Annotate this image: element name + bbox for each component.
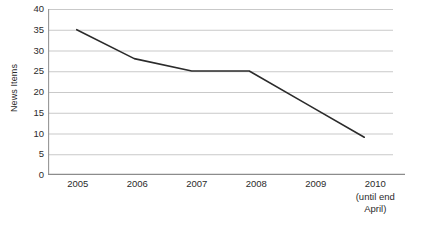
x-axis-tick-labels: 2005 2006 2007 2008 2009 2010 (until end… xyxy=(48,178,405,230)
y-tick-label-0: 0 xyxy=(39,170,44,180)
y-tick-label-5: 5 xyxy=(39,150,44,160)
series-news-items xyxy=(77,30,365,138)
y-tick-label-20: 20 xyxy=(33,87,44,97)
x-tick-label-2009: 2009 xyxy=(286,178,346,230)
chart-canvas xyxy=(48,9,405,175)
y-tick-label-15: 15 xyxy=(33,108,44,118)
series-line-news-items xyxy=(77,30,365,138)
x-tick-label-2007-text: 2007 xyxy=(186,178,207,189)
x-tick-label-2009-text: 2009 xyxy=(305,178,326,189)
gridlines xyxy=(48,10,393,155)
y-tick-label-40: 40 xyxy=(33,4,44,14)
x-tick-label-2010: 2010 (until end April) xyxy=(346,178,406,230)
line-chart-figure: News Items 40 35 30 25 20 15 10 5 0 xyxy=(0,0,423,234)
x-tick-label-2010-text: 2010 xyxy=(365,178,386,189)
y-tick-label-10: 10 xyxy=(33,129,44,139)
y-tick-label-25: 25 xyxy=(33,67,44,77)
x-tick-label-2006: 2006 xyxy=(108,178,168,230)
x-tick-label-2008: 2008 xyxy=(227,178,287,230)
x-tick-label-2010-note-line1: (until end xyxy=(346,191,406,204)
x-tick-label-2010-note-line2: April) xyxy=(346,203,406,216)
x-tick-label-2005: 2005 xyxy=(48,178,108,230)
y-tick-label-35: 35 xyxy=(33,25,44,35)
x-tick-label-2007: 2007 xyxy=(167,178,227,230)
x-tick-label-2005-text: 2005 xyxy=(67,178,88,189)
x-tick-label-2008-text: 2008 xyxy=(246,178,267,189)
y-tick-label-30: 30 xyxy=(33,46,44,56)
plot-area xyxy=(48,9,405,175)
y-axis-tick-labels: 40 35 30 25 20 15 10 5 0 xyxy=(18,9,44,175)
x-tick-label-2006-text: 2006 xyxy=(127,178,148,189)
